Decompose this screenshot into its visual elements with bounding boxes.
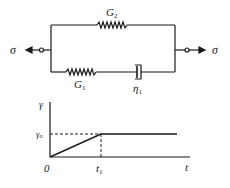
y-axis-label: γ (39, 99, 44, 110)
left-terminal (40, 48, 44, 52)
spring-g1-label: G1 (74, 78, 86, 92)
left-arrow-icon (26, 47, 32, 53)
x-axis-label: t (185, 161, 189, 173)
strain-curve (50, 134, 177, 157)
origin-label: 0 (44, 162, 50, 174)
spring-g1 (66, 69, 96, 75)
right-terminal (185, 48, 189, 52)
spring-g2-label: G2 (106, 6, 118, 20)
viscoelastic-diagram: σ σ G2 G1 η1 γ γo 0 t1 t (0, 0, 230, 188)
stress-right-label: σ (212, 43, 219, 57)
spring-g2 (97, 22, 127, 28)
x-tick-t1: t1 (96, 162, 103, 176)
strain-time-chart (50, 102, 190, 157)
right-arrow-icon (199, 47, 205, 53)
dashpot-eta1-label: η1 (133, 82, 142, 96)
stress-left-label: σ (10, 43, 17, 57)
y-tick-gamma0: γo (36, 129, 43, 139)
